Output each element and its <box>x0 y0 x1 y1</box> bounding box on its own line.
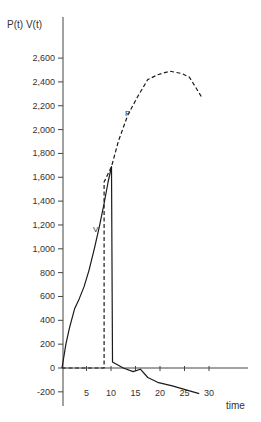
x-tick-label: 15 <box>130 388 140 398</box>
series-v-line <box>62 167 199 394</box>
x-tick-label: 30 <box>204 388 214 398</box>
y-tick-label: 400 <box>40 315 55 325</box>
x-tick-label: 20 <box>155 388 165 398</box>
x-tick-label: 10 <box>106 388 116 398</box>
line-chart: P(t) V(t) time -20002004006008001,0001,2… <box>0 0 261 422</box>
y-tick-label: 2,200 <box>32 101 55 111</box>
y-tick-label: 0 <box>50 363 55 373</box>
y-tick-label: 1,800 <box>32 148 55 158</box>
x-axis-ticks: 51015202530 <box>84 366 214 398</box>
y-axis-ticks: -20002004006008001,0001,2001,4001,6001,8… <box>32 53 63 397</box>
y-tick-label: 2,600 <box>32 53 55 63</box>
y-tick-label: 600 <box>40 291 55 301</box>
y-tick-label: 1,000 <box>32 244 55 254</box>
y-axis-title: P(t) V(t) <box>7 19 42 30</box>
y-tick-label: -200 <box>37 387 55 397</box>
y-tick-label: 200 <box>40 339 55 349</box>
y-tick-label: 1,400 <box>32 196 55 206</box>
y-tick-label: 2,000 <box>32 125 55 135</box>
series-p-label: P <box>125 109 130 118</box>
x-axis-title: time <box>226 400 245 411</box>
series-v-label: V <box>93 225 99 234</box>
y-tick-label: 1,600 <box>32 172 55 182</box>
y-tick-label: 800 <box>40 268 55 278</box>
y-tick-label: 2,400 <box>32 77 55 87</box>
y-tick-label: 1,200 <box>32 220 55 230</box>
x-tick-label: 5 <box>84 388 89 398</box>
series-p-line <box>62 71 203 368</box>
